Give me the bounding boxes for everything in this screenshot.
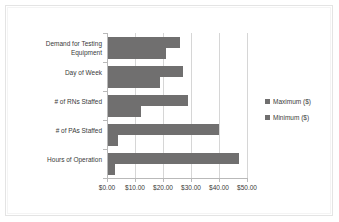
- value-tick: [135, 179, 136, 182]
- category-tick: [103, 120, 107, 121]
- category-axis-label: Demand for Testing Equipment: [14, 39, 102, 57]
- value-tick: [191, 179, 192, 182]
- legend-label: Maximum ($): [273, 97, 311, 106]
- bar-minimum: [107, 164, 115, 175]
- bar-minimum: [107, 77, 160, 88]
- category-axis-label: # of RNs Staffed: [14, 97, 102, 106]
- plot-area: [107, 33, 247, 178]
- bar-maximum: [107, 66, 183, 77]
- value-tick: [247, 179, 248, 182]
- bar-maximum: [107, 95, 188, 106]
- value-tick: [163, 179, 164, 182]
- bar-group: [107, 66, 247, 88]
- category-axis-label: # of PAs Staffed: [14, 126, 102, 135]
- value-axis-line: [107, 178, 248, 179]
- chart-screenshot: Demand for Testing EquipmentDay of Week#…: [0, 0, 339, 222]
- category-axis-line: [107, 33, 108, 179]
- bar-group: [107, 37, 247, 59]
- value-tick: [219, 179, 220, 182]
- legend-swatch-icon: [265, 115, 270, 120]
- bar-group: [107, 95, 247, 117]
- category-axis-label: Hours of Operation: [14, 155, 102, 164]
- bar-minimum: [107, 135, 118, 146]
- bar-minimum: [107, 106, 141, 117]
- legend-item[interactable]: Minimum ($): [265, 113, 335, 122]
- category-tick: [103, 33, 107, 34]
- legend-swatch-icon: [265, 99, 270, 104]
- bar-group: [107, 153, 247, 175]
- chart-frame: Demand for Testing EquipmentDay of Week#…: [5, 5, 333, 216]
- legend-label: Minimum ($): [273, 113, 309, 122]
- category-tick: [103, 149, 107, 150]
- bar-group: [107, 124, 247, 146]
- category-tick: [103, 62, 107, 63]
- value-axis-label: $50.00: [230, 183, 264, 192]
- bar-minimum: [107, 48, 166, 59]
- legend-item[interactable]: Maximum ($): [265, 97, 335, 106]
- category-tick: [103, 91, 107, 92]
- chart-legend: Maximum ($)Minimum ($): [265, 97, 335, 129]
- gridline: [247, 33, 248, 178]
- value-tick: [107, 179, 108, 182]
- bar-maximum: [107, 124, 219, 135]
- category-axis-label: Day of Week: [14, 68, 102, 77]
- bar-maximum: [107, 37, 180, 48]
- bar-maximum: [107, 153, 239, 164]
